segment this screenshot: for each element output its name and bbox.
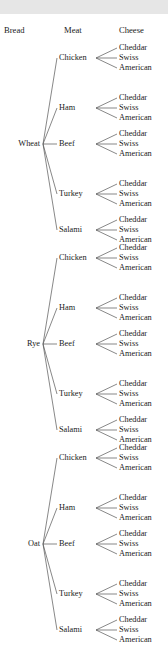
cheese-leaf-wheat-turkey-cheddar: Cheddar: [119, 179, 147, 188]
cheese-leaf-oat-chicken-swiss: Swiss: [119, 453, 138, 462]
cheese-leaf-wheat-beef-american: American: [119, 149, 152, 158]
cheese-leaf-wheat-ham-swiss: Swiss: [119, 103, 138, 112]
cheese-leaf-wheat-chicken-american: American: [119, 63, 152, 72]
cheese-leaf-oat-beef-american: American: [119, 549, 152, 558]
cheese-leaf-wheat-ham-cheddar: Cheddar: [119, 93, 147, 102]
cheese-leaf-rye-beef-american: American: [119, 349, 152, 358]
meat-node-wheat-salami: Salami: [59, 225, 82, 234]
cheese-leaf-rye-beef-cheddar: Cheddar: [119, 329, 147, 338]
cheese-leaf-rye-turkey-swiss: Swiss: [119, 389, 138, 398]
cheese-leaf-wheat-chicken-swiss: Swiss: [119, 53, 138, 62]
cheese-leaf-rye-ham-cheddar: Cheddar: [119, 293, 147, 302]
meat-node-rye-beef: Beef: [59, 339, 75, 348]
cheese-leaf-rye-chicken-swiss: Swiss: [119, 253, 138, 262]
meat-node-wheat-chicken: Chicken: [59, 53, 87, 62]
meat-node-rye-turkey: Turkey: [59, 389, 83, 398]
cheese-leaf-wheat-turkey-swiss: Swiss: [119, 189, 138, 198]
meat-node-oat-beef: Beef: [59, 539, 75, 548]
cheese-leaf-wheat-salami-swiss: Swiss: [119, 225, 138, 234]
tree-diagram: Bread Meat Cheese WheatChickenCheddarSwi…: [0, 0, 168, 664]
meat-node-wheat-turkey: Turkey: [59, 189, 83, 198]
meat-node-rye-ham: Ham: [59, 303, 75, 312]
cheese-leaf-oat-beef-cheddar: Cheddar: [119, 529, 147, 538]
meat-node-rye-chicken: Chicken: [59, 253, 87, 262]
cheese-leaf-oat-salami-american: American: [119, 635, 152, 644]
bread-node-rye: Rye: [0, 339, 40, 348]
bread-node-oat: Oat: [0, 539, 40, 548]
cheese-leaf-oat-ham-swiss: Swiss: [119, 503, 138, 512]
cheese-leaf-rye-salami-cheddar: Cheddar: [119, 415, 147, 424]
cheese-leaf-oat-turkey-cheddar: Cheddar: [119, 579, 147, 588]
cheese-leaf-wheat-beef-swiss: Swiss: [119, 139, 138, 148]
meat-node-rye-salami: Salami: [59, 425, 82, 434]
cheese-leaf-oat-chicken-cheddar: Cheddar: [119, 443, 147, 452]
bread-node-wheat: Wheat: [0, 139, 40, 148]
cheese-leaf-wheat-chicken-cheddar: Cheddar: [119, 43, 147, 52]
meat-node-oat-ham: Ham: [59, 503, 75, 512]
cheese-leaf-oat-beef-swiss: Swiss: [119, 539, 138, 548]
cheese-leaf-rye-ham-swiss: Swiss: [119, 303, 138, 312]
cheese-leaf-rye-turkey-cheddar: Cheddar: [119, 379, 147, 388]
cheese-leaf-wheat-beef-cheddar: Cheddar: [119, 129, 147, 138]
cheese-leaf-oat-chicken-american: American: [119, 463, 152, 472]
cheese-leaf-oat-ham-cheddar: Cheddar: [119, 493, 147, 502]
cheese-leaf-wheat-ham-american: American: [119, 113, 152, 122]
meat-node-oat-chicken: Chicken: [59, 453, 87, 462]
cheese-leaf-oat-salami-cheddar: Cheddar: [119, 615, 147, 624]
cheese-leaf-rye-salami-swiss: Swiss: [119, 425, 138, 434]
meat-node-wheat-ham: Ham: [59, 103, 75, 112]
cheese-leaf-rye-beef-swiss: Swiss: [119, 339, 138, 348]
cheese-leaf-oat-turkey-swiss: Swiss: [119, 589, 138, 598]
cheese-leaf-wheat-salami-cheddar: Cheddar: [119, 215, 147, 224]
meat-node-wheat-beef: Beef: [59, 139, 75, 148]
cheese-leaf-rye-chicken-cheddar: Cheddar: [119, 243, 147, 252]
meat-node-oat-salami: Salami: [59, 625, 82, 634]
cheese-leaf-wheat-turkey-american: American: [119, 199, 152, 208]
cheese-leaf-rye-ham-american: American: [119, 313, 152, 322]
cheese-leaf-oat-ham-american: American: [119, 513, 152, 522]
cheese-leaf-rye-chicken-american: American: [119, 263, 152, 272]
cheese-leaf-rye-turkey-american: American: [119, 399, 152, 408]
cheese-leaf-oat-salami-swiss: Swiss: [119, 625, 138, 634]
cheese-leaf-oat-turkey-american: American: [119, 599, 152, 608]
meat-node-oat-turkey: Turkey: [59, 589, 83, 598]
